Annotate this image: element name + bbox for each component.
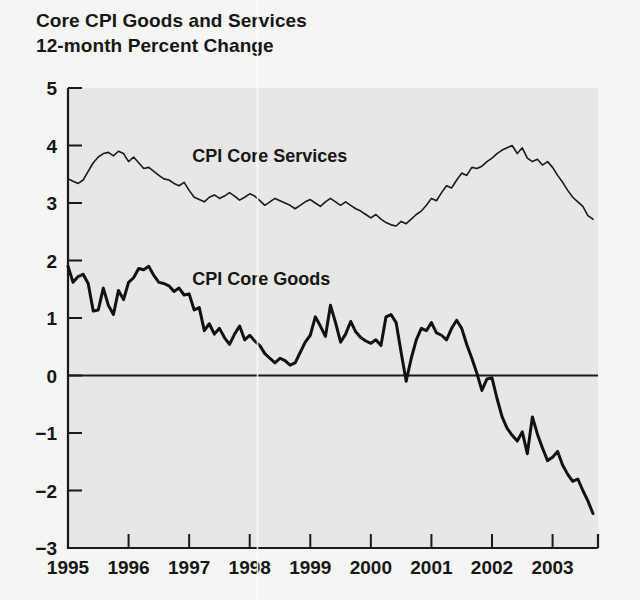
y-tick-label: −3 bbox=[35, 538, 57, 559]
y-tick-label: 2 bbox=[46, 251, 57, 272]
plot-area: 543210−1−2−3 199519961997199819992000200… bbox=[0, 0, 640, 600]
x-tick-label: 2002 bbox=[471, 557, 513, 578]
series-label-cpi-core-services: CPI Core Services bbox=[192, 146, 347, 166]
x-tick-label: 1996 bbox=[107, 557, 149, 578]
y-tick-label: −1 bbox=[35, 423, 57, 444]
y-tick-label: 0 bbox=[46, 366, 57, 387]
x-tick-label: 1998 bbox=[229, 557, 271, 578]
x-tick-label: 1997 bbox=[168, 557, 210, 578]
x-tick-label: 2000 bbox=[350, 557, 392, 578]
y-tick-label: 3 bbox=[46, 193, 57, 214]
figure-container: Core CPI Goods and Services 12-month Per… bbox=[0, 0, 640, 600]
y-tick-label: 4 bbox=[46, 136, 57, 157]
y-axis-labels: 543210−1−2−3 bbox=[35, 78, 57, 559]
line-chart-svg: 543210−1−2−3 199519961997199819992000200… bbox=[0, 0, 640, 600]
x-tick-label: 2001 bbox=[410, 557, 453, 578]
x-axis-labels: 199519961997199819992000200120022003 bbox=[47, 557, 574, 578]
x-tick-label: 1999 bbox=[289, 557, 331, 578]
x-tick-label: 2003 bbox=[531, 557, 573, 578]
x-tick-label: 1995 bbox=[47, 557, 90, 578]
y-tick-label: −2 bbox=[35, 481, 57, 502]
series-label-cpi-core-goods: CPI Core Goods bbox=[192, 269, 330, 289]
y-tick-label: 1 bbox=[46, 308, 57, 329]
y-tick-label: 5 bbox=[46, 78, 57, 99]
